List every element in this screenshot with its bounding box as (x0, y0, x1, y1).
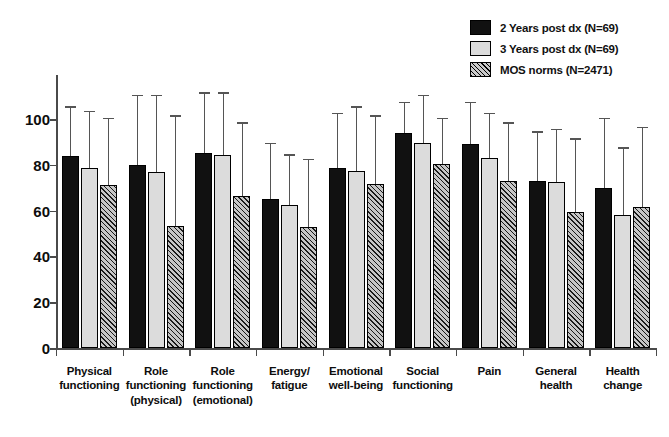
error-bar-cap (399, 102, 410, 103)
bar (595, 188, 612, 348)
bar (633, 207, 650, 348)
x-axis-category-label: Socialfunctioning (389, 364, 456, 393)
category-label-line: (emotional) (189, 393, 256, 407)
bar (614, 215, 631, 348)
category-label-line: General (523, 364, 590, 378)
bar (300, 227, 317, 348)
x-axis-category-label: Healthchange (589, 364, 656, 393)
bar (548, 182, 565, 348)
bar (167, 226, 184, 349)
error-bar-line (89, 112, 90, 168)
error-bar-line (204, 94, 205, 154)
x-axis-tick (323, 348, 324, 356)
y-axis-tick-label: 60 (6, 203, 50, 218)
error-bar-cap (151, 95, 162, 96)
bar (348, 171, 365, 348)
x-axis-tick (523, 348, 524, 356)
error-bar-cap (65, 106, 76, 107)
error-bar-line (423, 96, 424, 143)
bar (214, 155, 231, 349)
error-bar-cap (465, 102, 476, 103)
y-axis-tick-label: 80 (6, 157, 50, 172)
error-bar-line (137, 96, 138, 165)
category-label-line: well-being (323, 378, 390, 392)
x-axis-tick (656, 348, 657, 356)
y-axis-tick-label: 40 (6, 249, 50, 264)
x-axis-tick (56, 348, 57, 356)
error-bar-line (108, 119, 109, 185)
error-bar-cap (437, 118, 448, 119)
bar-group (395, 75, 450, 348)
category-label-line: Emotional (323, 364, 390, 378)
bar (195, 153, 212, 348)
error-bar-cap (265, 143, 276, 144)
bar-group (195, 75, 250, 348)
bar (148, 172, 165, 348)
error-bar-cap (237, 122, 248, 123)
bar (81, 168, 98, 348)
error-bar-cap (370, 115, 381, 116)
bar (100, 185, 117, 348)
error-bar-cap (599, 118, 610, 119)
category-label-line: (physical) (123, 393, 190, 407)
error-bar-line (604, 119, 605, 188)
bar (462, 144, 479, 348)
bar (414, 143, 431, 348)
error-bar-cap (170, 115, 181, 116)
error-bar-cap (351, 106, 362, 107)
error-bar-line (289, 156, 290, 205)
x-axis-tick (456, 348, 457, 356)
error-bar-cap (418, 95, 429, 96)
bar-group (262, 75, 317, 348)
bar (500, 181, 517, 348)
x-axis-tick (256, 348, 257, 356)
y-axis-tick-label: 0 (6, 341, 50, 356)
category-label-line: functioning (189, 378, 256, 392)
error-bar-line (404, 103, 405, 133)
error-bar-line (556, 130, 557, 182)
category-label-line: Role (189, 364, 256, 378)
bar-group (595, 75, 650, 348)
x-axis-category-label: Physicalfunctioning (56, 364, 123, 393)
error-bar-line (308, 160, 309, 226)
y-axis-tick-label: 20 (6, 295, 50, 310)
error-bar-line (642, 128, 643, 207)
bar (62, 156, 79, 348)
bar (329, 168, 346, 348)
error-bar-line (623, 149, 624, 215)
error-bar-cap (532, 131, 543, 132)
bar (367, 184, 384, 348)
bar (433, 164, 450, 348)
x-axis-category-label: Emotionalwell-being (323, 364, 390, 393)
bar (395, 133, 412, 348)
x-axis-category-label: Rolefunctioning(physical) (123, 364, 190, 407)
error-bar-cap (484, 113, 495, 114)
error-bar-cap (103, 118, 114, 119)
error-bar-cap (570, 138, 581, 139)
error-bar-line (489, 114, 490, 158)
error-bar-line (508, 124, 509, 181)
error-bar-line (375, 117, 376, 185)
x-axis-line (56, 348, 656, 350)
bar-group (529, 75, 584, 348)
bar (129, 165, 146, 348)
bar-group (62, 75, 117, 348)
error-bar-cap (637, 127, 648, 128)
x-axis-category-label: Rolefunctioning(emotional) (189, 364, 256, 407)
category-label-line: Social (389, 364, 456, 378)
y-axis-tick-label: 100 (6, 112, 50, 127)
error-bar-cap (503, 122, 514, 123)
error-bar-cap (218, 92, 229, 93)
category-label-line: functioning (56, 378, 123, 392)
category-label-line: functioning (123, 378, 190, 392)
category-label-line: fatigue (256, 378, 323, 392)
error-bar-cap (303, 159, 314, 160)
error-bar-cap (284, 154, 295, 155)
bar-group (329, 75, 384, 348)
x-axis-category-label: Generalhealth (523, 364, 590, 393)
bar (529, 181, 546, 348)
bar-chart: 020406080100 PhysicalfunctioningRolefunc… (0, 0, 669, 437)
error-bar-line (575, 140, 576, 212)
error-bar-line (242, 124, 243, 196)
category-label-line: Role (123, 364, 190, 378)
